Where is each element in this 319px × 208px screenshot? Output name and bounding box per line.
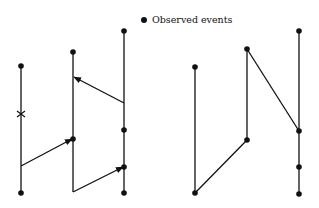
legend-label: Observed events xyxy=(152,14,232,25)
event-dot xyxy=(18,190,24,196)
event-dot xyxy=(121,127,127,133)
diagram-canvas xyxy=(0,0,319,208)
event-dot xyxy=(296,164,302,170)
message-arrow xyxy=(21,139,72,166)
event-dot xyxy=(70,49,76,55)
message-arrow xyxy=(74,77,124,103)
event-dot xyxy=(296,28,302,34)
event-dot xyxy=(192,64,198,70)
event-dot xyxy=(121,28,127,34)
message-arrow xyxy=(73,167,123,192)
event-dot xyxy=(296,191,302,197)
event-dot xyxy=(121,190,127,196)
legend: Observed events xyxy=(141,14,232,25)
observed-path-segment xyxy=(195,140,247,193)
event-dot xyxy=(18,63,24,69)
observed-path-segment xyxy=(247,49,299,131)
observed-event-marker-icon xyxy=(141,17,147,23)
